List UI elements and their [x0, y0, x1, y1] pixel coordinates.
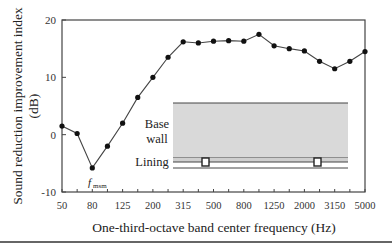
- data-point: [256, 32, 261, 37]
- chart: -100102050801252003155008001250200031505…: [0, 0, 392, 246]
- data-point: [165, 55, 170, 60]
- data-point: [362, 49, 367, 54]
- data-point: [90, 165, 95, 170]
- x-tick-label: 1250: [264, 200, 285, 211]
- data-point: [211, 39, 216, 44]
- data-point: [272, 43, 277, 48]
- data-point: [196, 40, 201, 45]
- x-tick-label: 5000: [355, 200, 376, 211]
- svg-text:msm: msm: [93, 182, 107, 190]
- lining-label: Lining: [135, 155, 169, 169]
- data-point: [181, 39, 186, 44]
- x-tick-label: 200: [145, 200, 161, 211]
- y-axis-label: Sound reduction improvement index: [10, 7, 25, 205]
- data-point: [120, 121, 125, 126]
- base-wall-label-2: wall: [146, 132, 168, 146]
- x-tick-label: 50: [57, 200, 68, 211]
- x-tick-label: 800: [236, 200, 252, 211]
- x-tick-label: 80: [87, 200, 98, 211]
- data-point: [332, 66, 337, 71]
- x-tick-label: 3150: [324, 200, 345, 211]
- data-point: [302, 48, 307, 53]
- y-tick-label: 0: [51, 129, 57, 141]
- y-axis-unit: (dB): [26, 94, 41, 119]
- data-point: [347, 59, 352, 64]
- data-point: [241, 39, 246, 44]
- x-tick-label: 500: [206, 200, 222, 211]
- x-tick-label: 125: [115, 200, 131, 211]
- data-point: [75, 131, 80, 136]
- data-point: [135, 95, 140, 100]
- stud-profile: [202, 158, 209, 166]
- data-point: [59, 123, 64, 128]
- x-tick-label: 315: [175, 200, 191, 211]
- y-tick-label: 10: [45, 71, 57, 83]
- data-point: [287, 46, 292, 51]
- stud-profile: [314, 158, 321, 166]
- x-axis-label: One-third-octave band center frequency (…: [92, 220, 336, 235]
- base-wall-label-1: Base: [145, 117, 170, 131]
- data-point: [317, 59, 322, 64]
- base-wall-fill: [173, 103, 348, 158]
- wall-diagram-inset: [173, 103, 348, 168]
- y-tick-label: -10: [41, 186, 56, 198]
- x-tick-label: 2000: [294, 200, 315, 211]
- fmsm-annotation: f msm: [88, 176, 107, 190]
- lining-layer: [173, 158, 348, 162]
- data-point: [105, 144, 110, 149]
- data-point: [226, 38, 231, 43]
- y-tick-label: 20: [45, 14, 57, 26]
- bottom-divider: [0, 241, 392, 243]
- data-point: [150, 75, 155, 80]
